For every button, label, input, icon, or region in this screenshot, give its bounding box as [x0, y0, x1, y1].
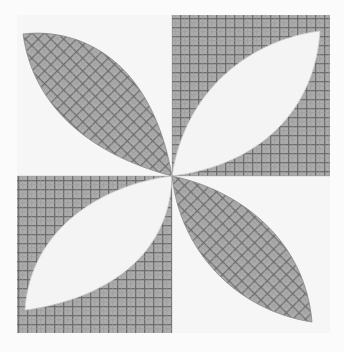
quilt-block-illustration [0, 0, 344, 352]
quilt-block-photo [0, 0, 344, 352]
